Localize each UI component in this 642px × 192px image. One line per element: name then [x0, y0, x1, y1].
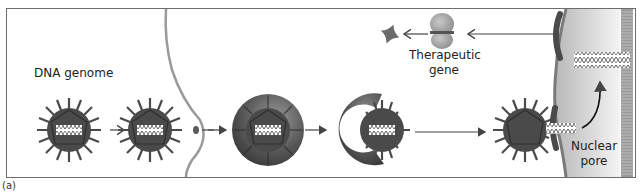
therapeutic-gene-label-line2: gene [409, 63, 479, 78]
dna-genome-icon [137, 125, 163, 135]
therapeutic-gene-label-line1: Therapeutic [409, 48, 479, 63]
dna-genome-label: DNA genome [34, 66, 113, 81]
diagram-canvas [0, 0, 642, 192]
virus-particle-binding [118, 98, 182, 162]
receptor-icon [193, 126, 199, 134]
secreted-product-icon [377, 21, 403, 47]
therapeutic-gene-label: Therapeutic gene [409, 48, 479, 78]
nuclear-dna-helix-icon [574, 52, 630, 68]
endosome-escape [339, 93, 410, 165]
dna-genome-icon [255, 125, 281, 135]
dna-genome-icon [56, 125, 82, 135]
dna-genome-icon [369, 125, 395, 135]
nuclear-pore-label: Nuclear pore [566, 139, 622, 169]
virus-particle-docked [493, 98, 555, 162]
nuclear-pore-label-line2: pore [566, 154, 622, 169]
therapeutic-protein-icon [430, 13, 454, 49]
nuclear-pore-label-line1: Nuclear [566, 139, 622, 154]
endosome [232, 94, 304, 166]
released-dna-icon [546, 123, 576, 134]
panel-label: (a) [2, 180, 16, 191]
virus-particle-free [37, 98, 101, 162]
